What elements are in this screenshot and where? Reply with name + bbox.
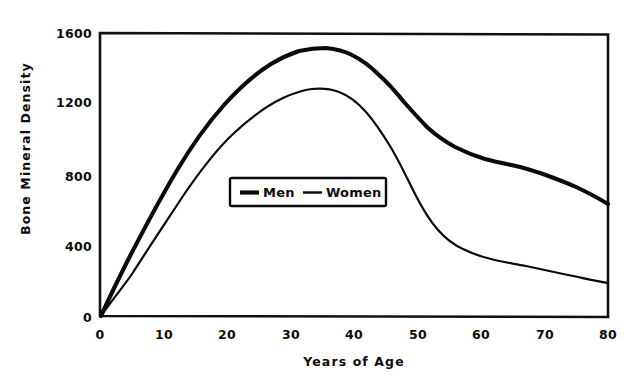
x-tick-label-40: 40 bbox=[345, 327, 363, 342]
x-tick-label-20: 20 bbox=[218, 327, 236, 342]
y-tick-label-400: 400 bbox=[65, 239, 92, 254]
y-tick-label-1600: 1600 bbox=[56, 26, 92, 41]
x-tick-label-30: 30 bbox=[282, 327, 300, 342]
x-tick-label-50: 50 bbox=[409, 327, 427, 342]
chart-figure: 1600 1200 800 400 0 Bone Mineral Density… bbox=[0, 0, 634, 378]
x-tick-label-10: 10 bbox=[155, 327, 173, 342]
y-axis-title-group: Bone Mineral Density bbox=[18, 62, 33, 235]
x-tick-label-70: 70 bbox=[536, 327, 554, 342]
x-axis-title: Years of Age bbox=[302, 354, 404, 369]
y-tick-label-0: 0 bbox=[83, 310, 92, 325]
y-tick-label-800: 800 bbox=[65, 169, 92, 184]
legend-label-women: Women bbox=[326, 185, 381, 200]
x-tick-label-80: 80 bbox=[599, 327, 617, 342]
y-axis-title: Bone Mineral Density bbox=[18, 62, 33, 235]
y-tick-label-1200: 1200 bbox=[56, 95, 92, 110]
chart-legend[interactable]: Men Women bbox=[230, 178, 386, 206]
legend-label-men: Men bbox=[263, 185, 295, 200]
x-tick-label-0: 0 bbox=[96, 327, 105, 342]
bone-mineral-density-line-chart: 1600 1200 800 400 0 Bone Mineral Density… bbox=[0, 0, 634, 378]
x-tick-label-60: 60 bbox=[472, 327, 490, 342]
